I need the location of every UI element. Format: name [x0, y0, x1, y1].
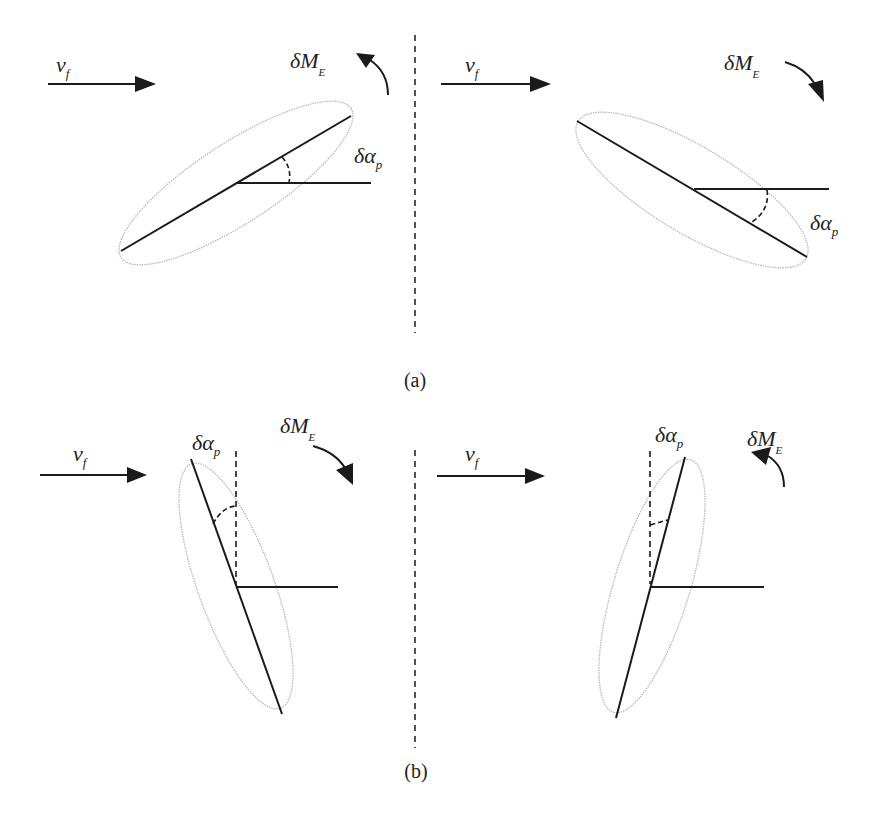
moment-label: δME — [724, 50, 760, 80]
flow-velocity-label: vf — [465, 441, 481, 470]
flow-arrow-icon — [437, 468, 545, 484]
flow-velocity-label: vf — [56, 52, 72, 81]
panel-b-left-case: vf δME δαp — [40, 413, 353, 721]
moment-label: δME — [290, 48, 326, 78]
flow-arrow-icon — [48, 76, 156, 92]
angle-arc — [650, 520, 668, 525]
panel-a-left-case: vf δME δαp — [48, 48, 388, 291]
flow-arrow-icon — [441, 76, 551, 92]
angle-arc — [282, 157, 290, 182]
angle-label: δαp — [192, 430, 221, 459]
panel-b-right-case: vf δME δαp — [437, 422, 784, 723]
angle-label: δαp — [810, 210, 839, 239]
angle-label: δαp — [354, 143, 383, 172]
panel-a: vf δME δαp vf δME — [48, 35, 839, 392]
panel-b-caption: (b) — [404, 760, 427, 783]
moment-arrow-cw-icon — [313, 446, 353, 485]
panel-b: vf δME δαp vf δME — [40, 413, 784, 783]
angle-label: δαp — [655, 422, 684, 451]
figure-canvas: vf δME δαp vf δME — [0, 0, 894, 825]
angle-arc — [752, 190, 767, 222]
flow-velocity-label: vf — [465, 52, 481, 81]
panel-a-caption: (a) — [404, 369, 426, 392]
moment-arrow-cw-icon — [785, 62, 824, 102]
moment-label: δME — [280, 413, 316, 443]
moment-arrow-ccw-icon — [356, 53, 388, 95]
flow-arrow-icon — [40, 467, 147, 483]
angle-arc — [213, 506, 236, 524]
flow-velocity-label: vf — [73, 441, 89, 470]
panel-a-right-case: vf δME δαp — [441, 50, 839, 295]
